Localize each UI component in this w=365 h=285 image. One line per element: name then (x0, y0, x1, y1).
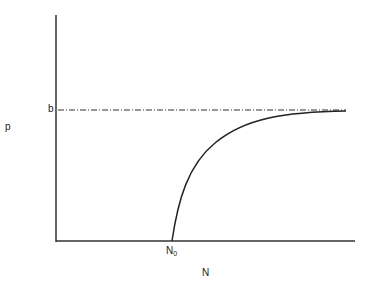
x-tick-n0: N0 (166, 246, 177, 257)
x-axis-label: N (202, 268, 209, 278)
x-tick-n0-sub: 0 (173, 250, 177, 257)
saturation-curve (172, 111, 346, 241)
y-axis-label: p (5, 122, 11, 132)
y-tick-b: b (48, 104, 54, 114)
chart-canvas (0, 0, 365, 285)
